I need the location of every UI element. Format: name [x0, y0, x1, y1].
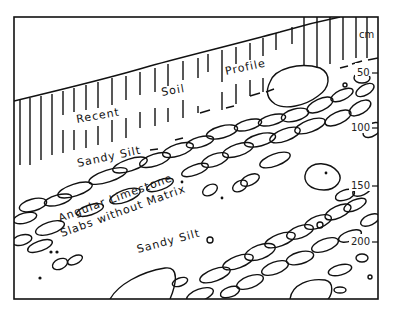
label-soil: Soil	[160, 82, 186, 99]
label-profile: Profile	[224, 57, 267, 78]
large-boulder	[267, 66, 328, 107]
scale-tick-200: 200	[351, 236, 370, 247]
limestone-slabs-upper	[11, 73, 384, 272]
label-sandy-silt-lower: Sandy Silt	[135, 226, 201, 255]
label-recent: Recent	[75, 106, 121, 126]
depth-scale	[372, 73, 378, 242]
scale-tick-100: 100	[351, 122, 370, 133]
diagram-frame	[14, 17, 378, 299]
stratigraphic-diagram: cm 50 100 150 200 Recent Soil Profile Sa…	[0, 0, 393, 313]
scale-tick-50: 50	[357, 67, 370, 78]
scale-unit: cm	[359, 29, 374, 40]
scale-tick-150: 150	[351, 180, 370, 191]
